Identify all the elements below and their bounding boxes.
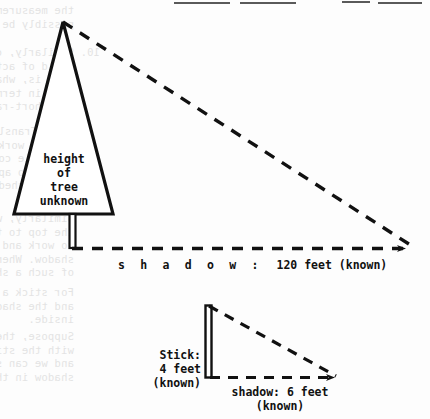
tree-height-label: heightoftreeunknown xyxy=(22,152,106,208)
stick-shadow-label: shadow: 6 feet(known) xyxy=(205,385,355,413)
stick-rect-shape xyxy=(206,306,212,378)
stick-shadow-line-1: shadow: 6 feet xyxy=(232,385,329,399)
stick-label-line-3: (known) xyxy=(153,376,201,390)
similar-triangles-diagram xyxy=(0,0,430,419)
tree-trunk-shape xyxy=(70,214,76,248)
tree-figure xyxy=(14,22,113,248)
tree-label-line-4: unknown xyxy=(40,194,88,208)
tree-label-line-2: of xyxy=(57,166,71,180)
tree-label-line-3: tree xyxy=(50,180,78,194)
stick-label-line-1: Stick: xyxy=(159,348,201,362)
stick-shadow-line-2: (known) xyxy=(256,399,304,413)
figure-page: the measurements were correct, could the… xyxy=(0,0,430,419)
tree-hypotenuse-line xyxy=(63,22,412,246)
stick-height-label: Stick:4 feet(known) xyxy=(123,348,201,390)
tree-shadow-label: s h a d o w : 120 feet (known) xyxy=(118,259,387,272)
tree-shadow-value: 120 feet (known) xyxy=(276,258,387,272)
stick-label-line-2: 4 feet xyxy=(159,362,201,376)
tree-label-line-1: height xyxy=(43,152,85,166)
stick-hypotenuse-line xyxy=(209,306,336,376)
tree-shadow-word: s h a d o w : xyxy=(118,258,263,272)
stick-figure xyxy=(206,306,212,378)
